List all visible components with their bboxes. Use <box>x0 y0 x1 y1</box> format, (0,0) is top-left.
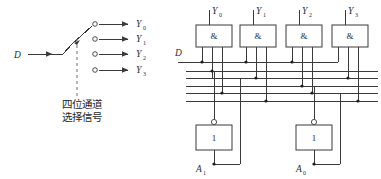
right-input-label: D <box>174 48 182 58</box>
junction-a0-tap <box>312 162 315 165</box>
figure-canvas: D Y 0 Y 1 Y 2 Y 3 & <box>0 0 381 179</box>
switch-blade <box>72 26 92 44</box>
junction-d-g0 <box>200 60 203 63</box>
and-gate-2-symbol: & <box>300 31 307 41</box>
junction-b5-g3 <box>356 99 359 102</box>
not-gate-a1[interactable]: 1 <box>196 71 232 164</box>
not-gate-a0-bubble <box>311 119 316 124</box>
junction-d-g1 <box>244 60 247 63</box>
select-input-label-a0: A <box>295 164 302 174</box>
output-label-y1-sub: 1 <box>143 40 146 46</box>
and-output-label-y2-sub: 2 <box>309 12 312 18</box>
left-output-labels: Y 0 Y 1 Y 2 Y 3 <box>136 19 146 77</box>
junction-b2-g1 <box>254 76 257 79</box>
output-label-y3-sub: 3 <box>143 71 146 77</box>
and-gate-3-symbol: & <box>346 31 353 41</box>
not-gate-a1-bubble <box>211 119 216 124</box>
not-gate-a0-symbol: 1 <box>312 133 317 143</box>
not-gate-a0[interactable]: 1 <box>296 86 332 164</box>
junction-b2-g3 <box>346 76 349 79</box>
and-gate-output-labels: Y 0 Y 1 Y 2 Y 3 <box>212 6 358 18</box>
junction-b1-g0 <box>210 69 213 72</box>
switch-caption-line-2: 选择信号 <box>46 111 118 124</box>
output-label-y2: Y <box>136 49 143 59</box>
junction-d-g2 <box>290 60 293 63</box>
junction-a1-tap <box>212 162 215 165</box>
and-output-label-y1: Y <box>256 6 263 16</box>
and-gate-3[interactable]: & <box>332 10 368 101</box>
switch-contact-1[interactable] <box>93 37 98 42</box>
output-label-y0: Y <box>136 19 143 29</box>
and-gate-1[interactable]: & <box>240 10 276 101</box>
and-output-label-y0-sub: 0 <box>219 12 222 18</box>
select-input-label-a0-sub: 0 <box>303 170 306 176</box>
switch-contacts-group <box>93 22 128 73</box>
switch-caption-line-1: 四位通道 <box>46 98 118 111</box>
left-input-label: D <box>13 50 21 60</box>
right-logic-schematic: & & & <box>174 6 378 176</box>
and-output-label-y2: Y <box>302 6 309 16</box>
junction-b4-g0 <box>220 91 223 94</box>
switch-contact-3[interactable] <box>93 68 98 73</box>
and-output-label-y0: Y <box>212 6 219 16</box>
junction-b3-g2 <box>300 84 303 87</box>
switch-contact-0[interactable] <box>93 22 98 27</box>
and-output-label-y3-sub: 3 <box>355 12 358 18</box>
output-label-y2-sub: 2 <box>143 55 146 61</box>
and-output-label-y1-sub: 1 <box>263 12 266 18</box>
select-input-label-a1: A <box>195 164 202 174</box>
select-input-label-a1-sub: 1 <box>203 170 206 176</box>
and-gate-0-symbol: & <box>210 31 217 41</box>
output-label-y0-sub: 0 <box>143 25 146 31</box>
junction-b5-g1 <box>264 99 267 102</box>
switch-pivot-elbow <box>63 44 72 54</box>
not-gate-a1-symbol: 1 <box>212 133 217 143</box>
circuit-diagram: D Y 0 Y 1 Y 2 Y 3 & <box>0 0 381 179</box>
and-output-label-y3: Y <box>348 6 355 16</box>
junction-b4-g2 <box>310 91 313 94</box>
left-switch-schematic: D Y 0 Y 1 Y 2 Y 3 <box>13 19 146 96</box>
output-label-y1: Y <box>136 34 143 44</box>
and-gate-1-symbol: & <box>254 31 261 41</box>
and-gate-2[interactable]: & <box>286 10 322 93</box>
output-label-y3: Y <box>136 65 143 75</box>
switch-contact-2[interactable] <box>93 52 98 57</box>
